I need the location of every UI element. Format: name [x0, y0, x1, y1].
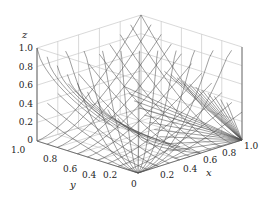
y-tick-0.2: 0.2 — [103, 170, 117, 180]
z-tick-0.6: 0.6 — [19, 80, 34, 90]
y-tick-0.4: 0.4 — [82, 170, 97, 180]
x-tick-0: 0 — [131, 179, 137, 189]
z-tick-1.0: 1.0 — [19, 43, 34, 53]
z-tick-0: 0 — [27, 135, 33, 145]
x-tick-0.8: 0.8 — [222, 148, 237, 158]
x-tick-0.6: 0.6 — [203, 155, 218, 165]
z-tick-0.4: 0.4 — [19, 99, 34, 109]
3d-plot: 1.0 0.8 0.6 0.4 0.2 0 z 1.0 0.8 0.6 0.4 … — [0, 0, 273, 197]
z-tick-0.2: 0.2 — [19, 117, 33, 127]
y-tick-0.8: 0.8 — [43, 154, 58, 164]
y-tick-1.0: 1.0 — [11, 145, 26, 155]
x-tick-0.2: 0.2 — [160, 170, 174, 180]
x-tick-0.4: 0.4 — [183, 164, 198, 174]
x-tick-1.0: 1.0 — [244, 141, 259, 151]
z-tick-0.8: 0.8 — [19, 62, 34, 72]
axis-box-grid — [37, 15, 242, 173]
y-axis-label: y — [69, 179, 76, 190]
z-axis-label: z — [21, 29, 28, 40]
x-axis-label: x — [206, 167, 212, 178]
y-tick-0.6: 0.6 — [63, 164, 78, 174]
